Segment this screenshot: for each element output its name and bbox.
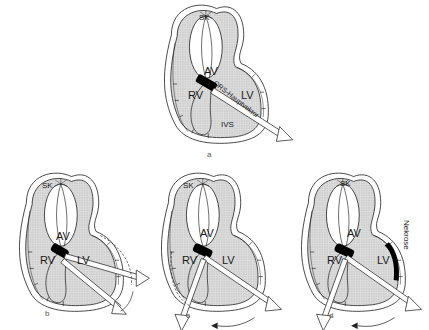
label-sk-a: SK — [199, 13, 210, 22]
label-ivs-a: IVS — [221, 120, 234, 129]
label-sk-d: SK — [340, 179, 351, 188]
label-rv-a: RV — [188, 89, 204, 101]
caption-a: a — [207, 150, 212, 159]
label-lv-b: LV — [77, 254, 90, 266]
label-av-b: AV — [56, 230, 71, 242]
heart-conduction-diagram: SK AV RV LV IVS QRS-Hauptvektor a SK AV … — [0, 0, 429, 330]
label-av-a: AV — [204, 65, 219, 77]
caption-c: c — [186, 311, 190, 320]
caption-d: d — [329, 311, 333, 320]
label-av-d: AV — [347, 227, 362, 239]
label-sk-b: SK — [42, 181, 53, 190]
label-sk-c: SK — [183, 181, 194, 190]
panel-c — [161, 173, 281, 330]
label-rv-c: RV — [182, 254, 198, 266]
label-lv-c: LV — [222, 254, 235, 266]
label-av-c: AV — [200, 227, 215, 239]
label-lv-d: LV — [377, 254, 390, 266]
label-rv-b: RV — [40, 254, 56, 266]
label-rv-d: RV — [327, 254, 343, 266]
panel-d — [301, 173, 421, 330]
caption-b: b — [45, 309, 50, 318]
panel-b — [19, 173, 149, 314]
label-necrosis: Nekrose — [402, 220, 411, 250]
